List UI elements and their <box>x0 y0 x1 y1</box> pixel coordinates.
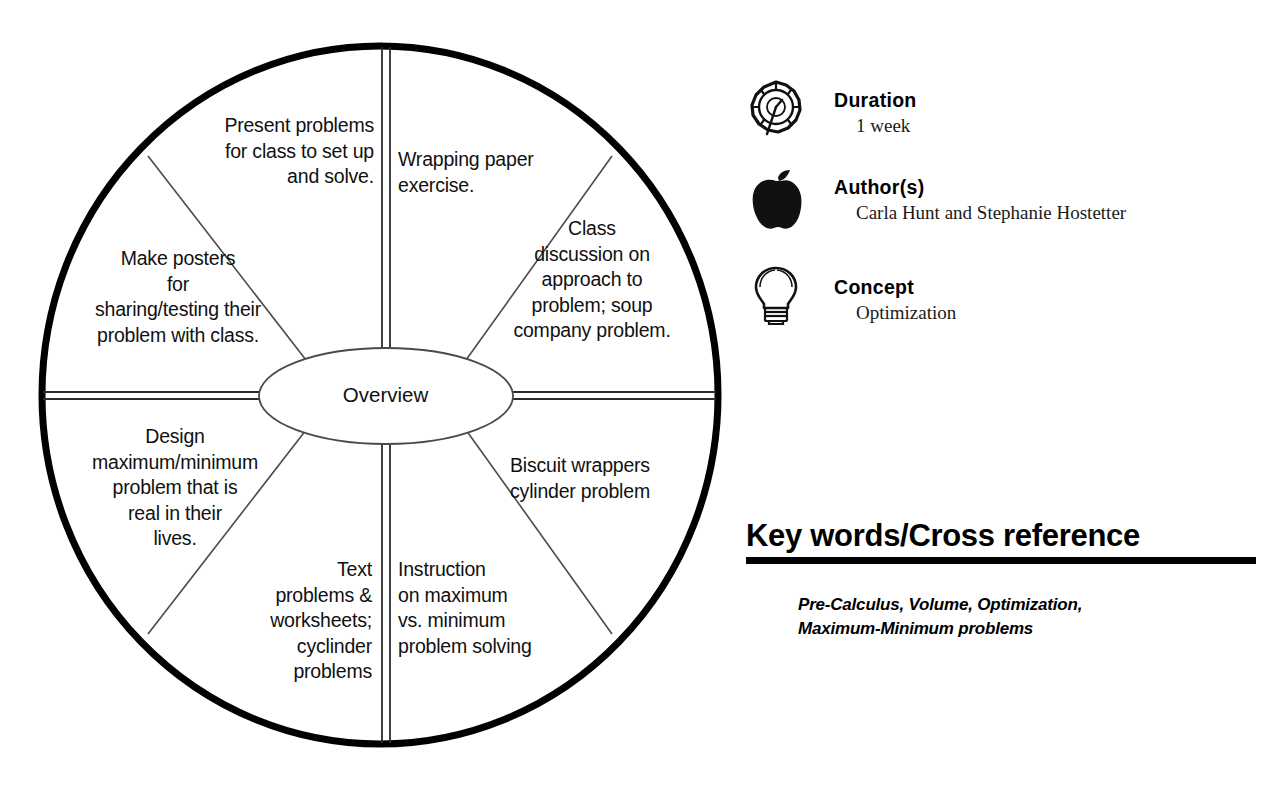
segment-label-design-maxmin: Design maximum/minimum problem that is r… <box>50 424 300 552</box>
metadata-row-authors: Author(s) Carla Hunt and Stephanie Hoste… <box>745 163 1275 249</box>
segment-label-make-posters: Make posters for sharing/testing their p… <box>46 246 310 348</box>
center-label: Overview <box>259 382 512 408</box>
keywords-list: Pre-Calculus, Volume, Optimization, Maxi… <box>746 593 1256 641</box>
segment-label-instruction-maxmin: Instruction on maximum vs. minimum probl… <box>398 557 598 659</box>
metadata-value-authors: Carla Hunt and Stephanie Hostetter <box>834 198 1275 225</box>
metadata-value-concept: Optimization <box>834 298 1275 325</box>
metadata-row-duration: Duration 1 week <box>745 76 1275 154</box>
segment-label-biscuit-wrappers: Biscuit wrappers cylinder problem <box>470 453 690 504</box>
segment-label-text-problems: Text problems & worksheets; cyclinder pr… <box>212 557 372 685</box>
metadata-list: Duration 1 week Author(s) Carla Hunt and… <box>745 76 1275 350</box>
segment-label-wrapping-paper: Wrapping paper exercise. <box>398 147 598 198</box>
overview-wheel-diagram: Overview Present problems for class to s… <box>0 0 760 786</box>
keywords-section: Key words/Cross reference Pre-Calculus, … <box>746 518 1256 641</box>
segment-label-class-discussion: Class discussion on approach to problem;… <box>492 216 692 344</box>
metadata-title-authors: Author(s) <box>834 176 1275 198</box>
metadata-row-concept: Concept Optimization <box>745 263 1275 341</box>
keywords-heading: Key words/Cross reference <box>746 518 1256 554</box>
metadata-value-duration: 1 week <box>834 111 1275 138</box>
metadata-title-concept: Concept <box>834 276 1275 298</box>
clock-icon <box>745 76 807 140</box>
lightbulb-icon <box>745 263 807 327</box>
keywords-divider <box>746 557 1256 564</box>
segment-label-present-problems: Present problems for class to set up and… <box>174 113 374 190</box>
metadata-title-duration: Duration <box>834 89 1275 111</box>
poster-page: Overview Present problems for class to s… <box>0 0 1287 786</box>
apple-icon <box>745 169 807 233</box>
